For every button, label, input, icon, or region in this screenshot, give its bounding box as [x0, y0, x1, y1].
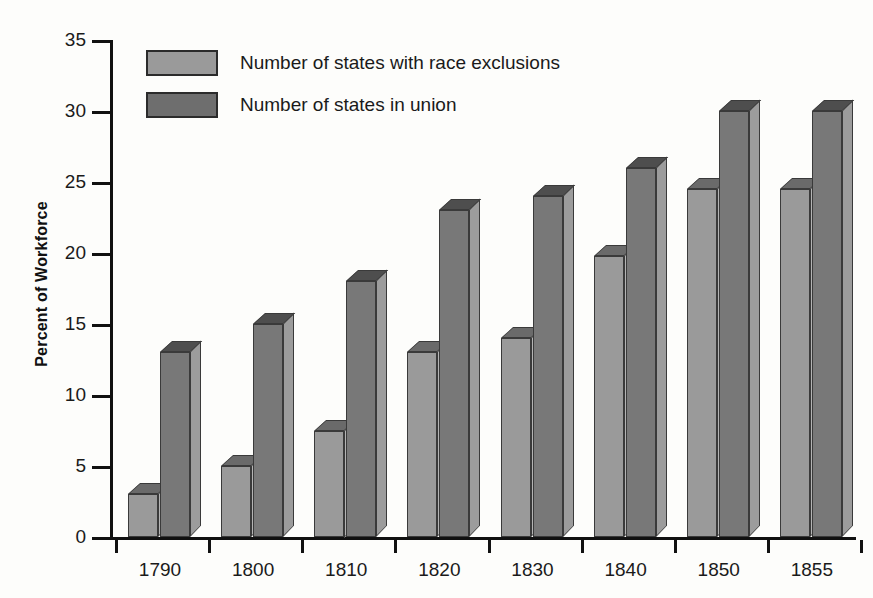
legend-label: Number of states in union	[240, 94, 457, 116]
bar-side	[190, 341, 201, 537]
bar-front	[314, 431, 344, 538]
x-tick-label: 1840	[576, 559, 676, 581]
x-tick-label: 1810	[296, 559, 396, 581]
bar-front	[160, 352, 190, 537]
x-tick	[208, 540, 211, 553]
y-tick	[92, 537, 110, 540]
bar-front	[439, 210, 469, 537]
x-tick-label: 1855	[762, 559, 862, 581]
bar-side	[842, 100, 853, 537]
bar	[501, 338, 531, 537]
chart-legend: Number of states with race exclusionsNum…	[146, 46, 560, 130]
bar	[253, 324, 283, 537]
legend-item: Number of states with race exclusions	[146, 46, 560, 80]
bar-front	[687, 189, 717, 537]
x-tick-label: 1790	[110, 559, 210, 581]
y-tick-label: 35	[44, 29, 86, 51]
bar-side	[469, 199, 480, 537]
bar-front	[346, 281, 376, 537]
y-tick-label: 10	[44, 384, 86, 406]
bar-front	[128, 494, 158, 537]
bar-front	[221, 466, 251, 537]
y-tick-label: 15	[44, 313, 86, 335]
x-tick-label: 1800	[203, 559, 303, 581]
bar-side	[283, 313, 294, 537]
y-tick	[92, 40, 110, 43]
bar	[533, 196, 563, 537]
bar-side	[563, 185, 574, 537]
x-tick-label: 1820	[389, 559, 489, 581]
x-tick	[115, 540, 118, 553]
y-tick	[92, 466, 110, 469]
y-tick-label: 25	[44, 171, 86, 193]
bar	[314, 431, 344, 538]
bar-front	[533, 196, 563, 537]
bar-front	[780, 189, 810, 537]
bar-front	[626, 168, 656, 537]
x-tick	[488, 540, 491, 553]
bar	[687, 189, 717, 537]
legend-item: Number of states in union	[146, 88, 560, 122]
legend-label: Number of states with race exclusions	[240, 52, 560, 74]
bar-front	[594, 256, 624, 537]
bar-chart: Percent of Workforce 05101520253035 1790…	[0, 0, 873, 598]
x-tick	[394, 540, 397, 553]
bar	[812, 111, 842, 537]
legend-swatch	[146, 92, 218, 118]
y-tick-label: 5	[44, 455, 86, 477]
y-tick	[92, 324, 110, 327]
bar-side	[376, 270, 387, 537]
y-tick	[92, 253, 110, 256]
bar	[780, 189, 810, 537]
bar-front	[501, 338, 531, 537]
bar	[719, 111, 749, 537]
y-tick	[92, 182, 110, 185]
bar	[407, 352, 437, 537]
bar-front	[407, 352, 437, 537]
bar	[128, 494, 158, 537]
bar	[439, 210, 469, 537]
x-tick-label: 1830	[483, 559, 583, 581]
y-axis-title: Percent of Workforce	[33, 154, 51, 414]
bar	[594, 256, 624, 537]
bar-side	[749, 100, 760, 537]
bar-front	[812, 111, 842, 537]
bar-front	[719, 111, 749, 537]
y-tick-label: 0	[44, 526, 86, 548]
x-tick	[674, 540, 677, 553]
bar-side	[656, 156, 667, 537]
bar	[160, 352, 190, 537]
x-axis-line	[110, 537, 856, 540]
y-tick-label: 20	[44, 242, 86, 264]
x-tick	[581, 540, 584, 553]
x-tick-label: 1850	[669, 559, 769, 581]
bar	[626, 168, 656, 537]
y-tick	[92, 111, 110, 114]
bar	[346, 281, 376, 537]
x-tick	[860, 540, 863, 553]
y-tick	[92, 395, 110, 398]
x-tick	[301, 540, 304, 553]
x-tick	[767, 540, 770, 553]
legend-swatch	[146, 50, 218, 76]
bar	[221, 466, 251, 537]
bar-front	[253, 324, 283, 537]
y-tick-label: 30	[44, 100, 86, 122]
y-axis-line	[110, 40, 113, 538]
